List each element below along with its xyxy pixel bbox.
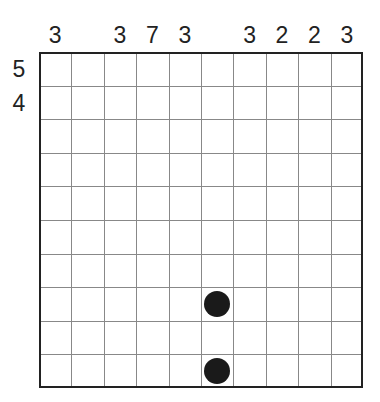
grid-cell[interactable]	[298, 287, 330, 321]
grid-cell[interactable]	[233, 254, 265, 288]
grid-cell[interactable]	[169, 119, 201, 153]
grid-cell[interactable]	[233, 321, 265, 355]
grid-cell[interactable]	[331, 186, 363, 220]
grid-cell[interactable]	[201, 254, 233, 288]
grid-cell[interactable]	[136, 186, 168, 220]
grid-cell[interactable]	[266, 354, 298, 388]
grid-cell[interactable]	[298, 220, 330, 254]
grid-cell[interactable]	[71, 52, 103, 86]
grid-cell[interactable]	[104, 287, 136, 321]
grid-cell[interactable]	[136, 287, 168, 321]
grid-cell[interactable]	[298, 321, 330, 355]
grid-cell[interactable]	[266, 220, 298, 254]
grid-cell[interactable]	[39, 153, 71, 187]
grid-cell[interactable]	[266, 186, 298, 220]
grid-cell[interactable]	[71, 153, 103, 187]
grid-cell[interactable]	[39, 287, 71, 321]
grid-cell[interactable]	[233, 354, 265, 388]
grid-cell[interactable]	[331, 254, 363, 288]
grid-cell[interactable]	[136, 52, 168, 86]
grid-cell[interactable]	[266, 86, 298, 120]
grid-cell[interactable]	[169, 287, 201, 321]
grid-cell[interactable]	[266, 287, 298, 321]
grid-cell[interactable]	[331, 86, 363, 120]
grid-cell[interactable]	[233, 119, 265, 153]
grid-cell[interactable]	[136, 220, 168, 254]
grid-cell[interactable]	[71, 354, 103, 388]
grid-cell[interactable]	[169, 354, 201, 388]
grid-cell[interactable]	[331, 220, 363, 254]
grid-cell[interactable]	[331, 287, 363, 321]
grid-cell[interactable]	[298, 119, 330, 153]
grid-cell[interactable]	[298, 52, 330, 86]
grid-cell[interactable]	[136, 153, 168, 187]
grid-cell[interactable]	[201, 220, 233, 254]
grid-cell[interactable]	[136, 119, 168, 153]
grid-cell[interactable]	[71, 254, 103, 288]
grid-cell[interactable]	[331, 52, 363, 86]
grid-cell[interactable]	[71, 220, 103, 254]
grid-cell[interactable]	[104, 52, 136, 86]
grid-cell[interactable]	[331, 321, 363, 355]
grid-cell[interactable]	[39, 86, 71, 120]
grid-cell[interactable]	[104, 354, 136, 388]
grid-cell[interactable]	[104, 153, 136, 187]
grid-cell[interactable]	[266, 119, 298, 153]
grid-cell[interactable]	[71, 86, 103, 120]
grid-cell[interactable]	[104, 254, 136, 288]
grid-cell[interactable]	[298, 86, 330, 120]
grid-cell[interactable]	[71, 287, 103, 321]
grid-cell[interactable]	[136, 86, 168, 120]
grid-cell[interactable]	[233, 86, 265, 120]
grid-cell[interactable]	[233, 153, 265, 187]
grid-cell[interactable]	[39, 119, 71, 153]
grid-cell[interactable]	[169, 321, 201, 355]
grid-cell[interactable]	[39, 52, 71, 86]
grid-cell[interactable]	[169, 52, 201, 86]
grid-cell[interactable]	[104, 119, 136, 153]
column-clue: 3	[331, 22, 363, 49]
grid-cell[interactable]	[298, 254, 330, 288]
grid-cell[interactable]	[136, 321, 168, 355]
grid-cell[interactable]	[266, 321, 298, 355]
grid-cell[interactable]	[201, 86, 233, 120]
grid-cell[interactable]	[331, 153, 363, 187]
grid-cell[interactable]	[104, 86, 136, 120]
grid-cell[interactable]	[201, 119, 233, 153]
grid-cell[interactable]	[233, 52, 265, 86]
grid-cell[interactable]	[169, 186, 201, 220]
grid-cell[interactable]	[331, 119, 363, 153]
grid-cell[interactable]	[39, 354, 71, 388]
grid-cell[interactable]	[233, 287, 265, 321]
grid-cell[interactable]	[201, 153, 233, 187]
grid-cell[interactable]	[136, 354, 168, 388]
grid-cell[interactable]	[266, 254, 298, 288]
grid-cell[interactable]	[298, 153, 330, 187]
grid-cell[interactable]	[266, 153, 298, 187]
grid-cell[interactable]	[71, 119, 103, 153]
grid-cell[interactable]	[266, 52, 298, 86]
grid-cell[interactable]	[71, 186, 103, 220]
grid-cell[interactable]	[104, 220, 136, 254]
grid-cell[interactable]	[104, 321, 136, 355]
grid-cell[interactable]	[39, 186, 71, 220]
grid-cell[interactable]	[169, 153, 201, 187]
puzzle-grid[interactable]	[39, 52, 363, 388]
grid-cell[interactable]	[201, 52, 233, 86]
grid-cell[interactable]	[39, 321, 71, 355]
grid-cell[interactable]	[233, 220, 265, 254]
grid-cell[interactable]	[298, 186, 330, 220]
grid-cell[interactable]	[169, 220, 201, 254]
grid-cell[interactable]	[136, 254, 168, 288]
grid-cell[interactable]	[39, 254, 71, 288]
grid-cell[interactable]	[298, 354, 330, 388]
grid-cell[interactable]	[331, 354, 363, 388]
grid-cell[interactable]	[233, 186, 265, 220]
grid-cell[interactable]	[169, 254, 201, 288]
grid-cell[interactable]	[201, 186, 233, 220]
grid-cell[interactable]	[169, 86, 201, 120]
grid-cell[interactable]	[39, 220, 71, 254]
grid-cell[interactable]	[104, 186, 136, 220]
grid-cell[interactable]	[201, 321, 233, 355]
grid-cell[interactable]	[71, 321, 103, 355]
